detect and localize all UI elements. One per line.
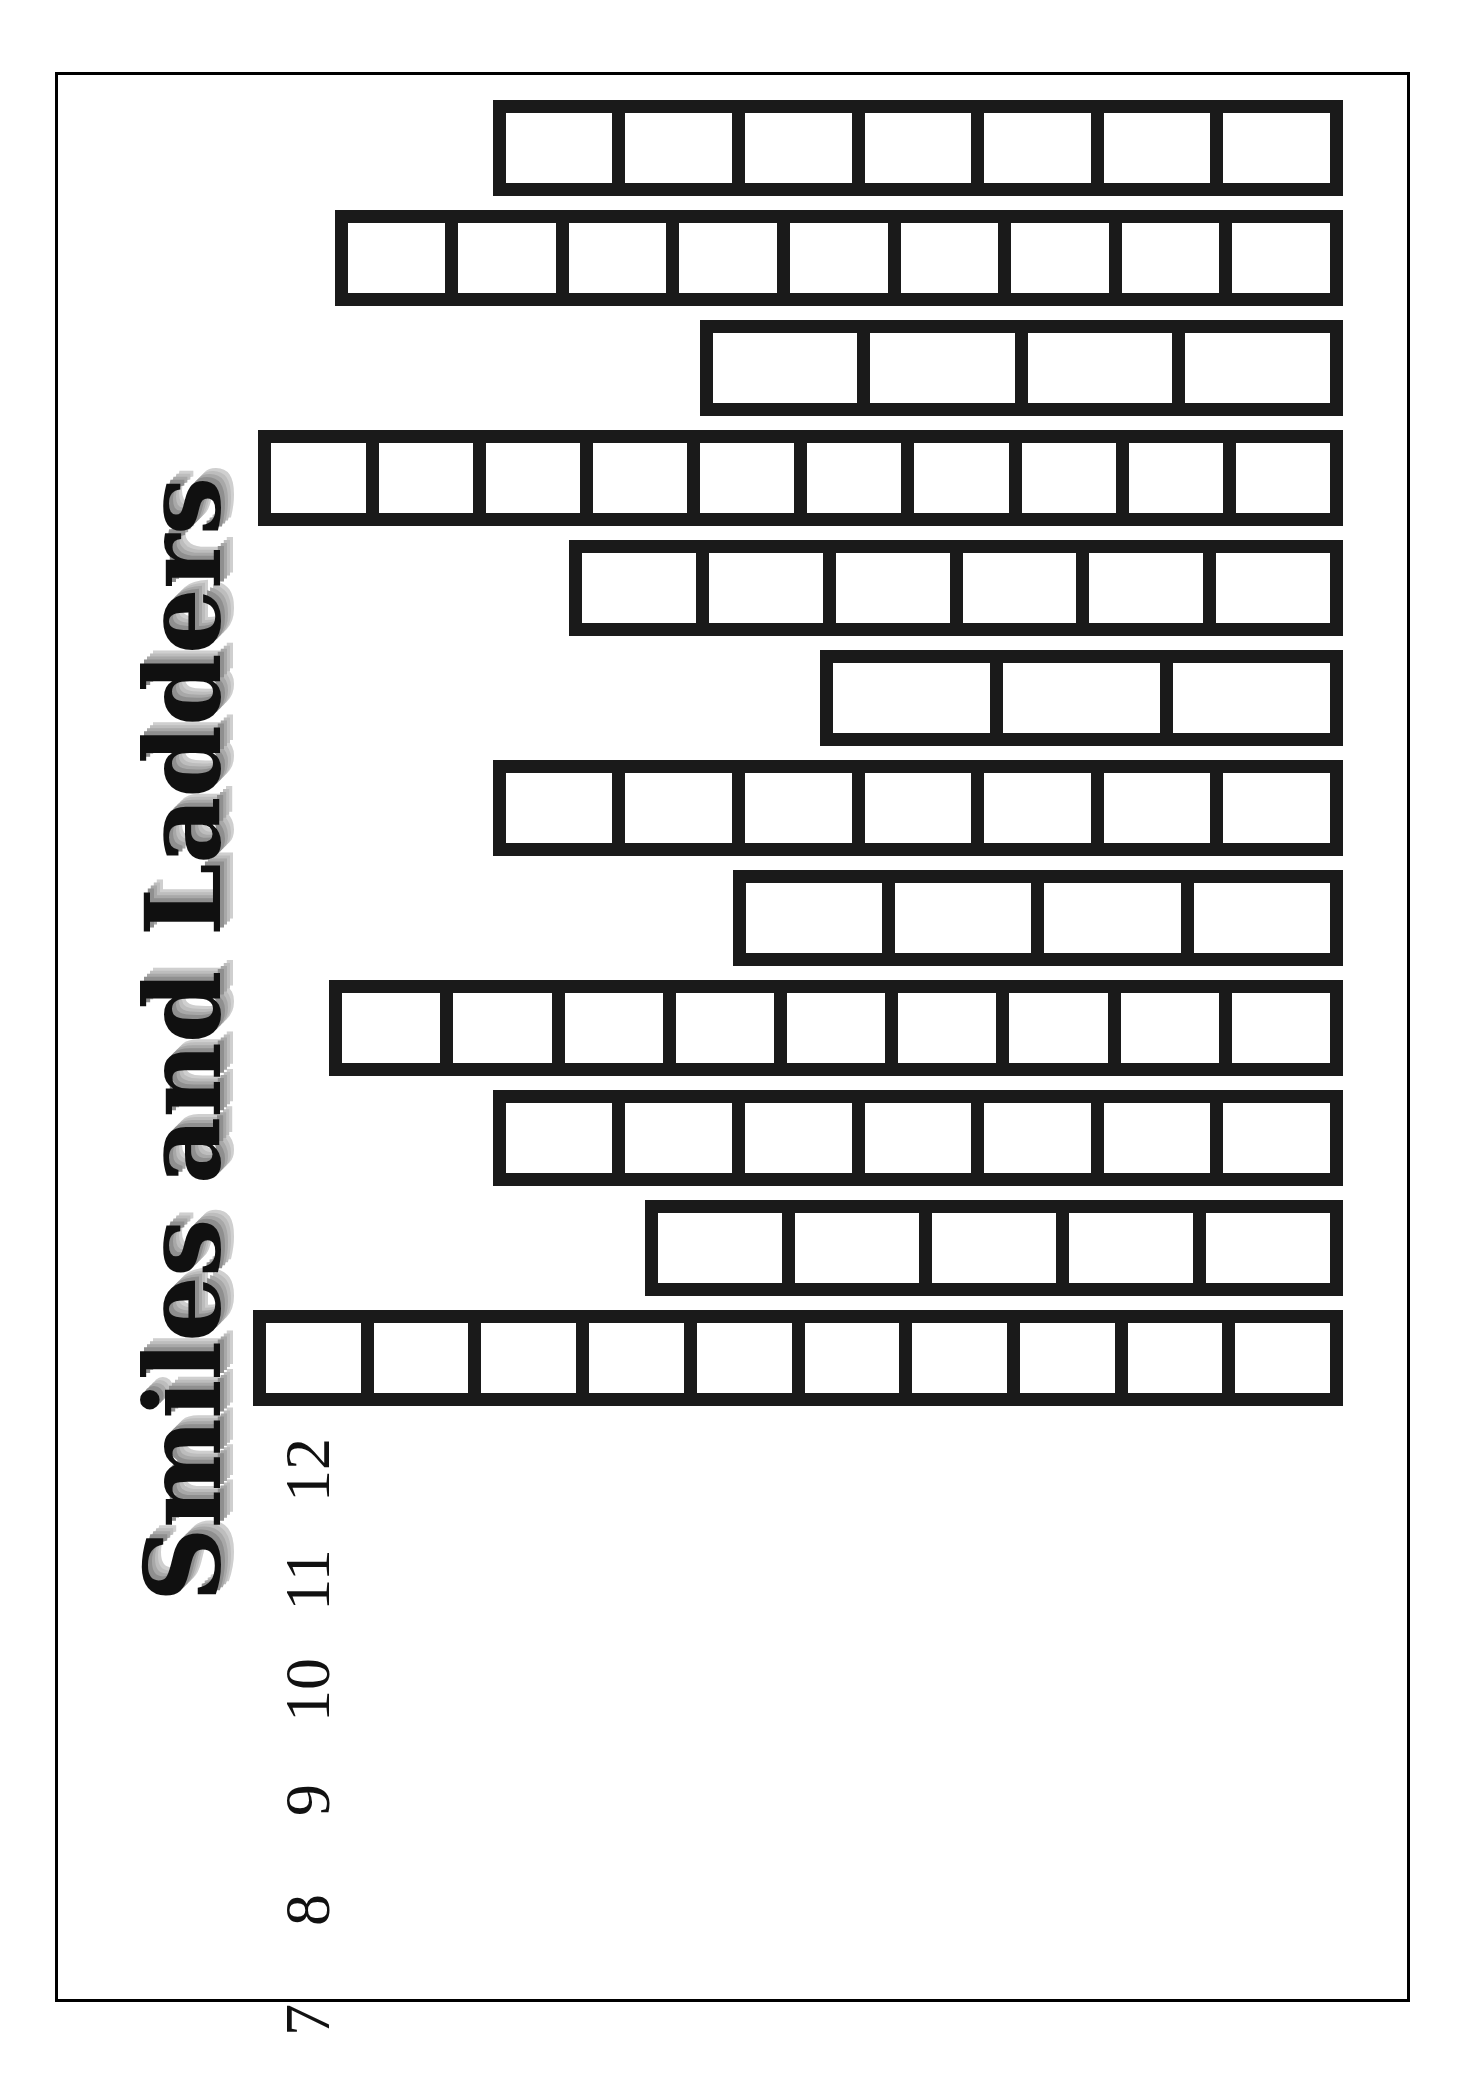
ladder-rung-gap	[865, 113, 972, 183]
ladder-rung	[852, 1103, 865, 1173]
ladder-rung	[1091, 773, 1104, 843]
ladder-bar	[820, 650, 1343, 746]
ladder-rung	[885, 993, 898, 1063]
ladder-rung-gap	[625, 113, 732, 183]
ladder-rung-gap	[865, 1103, 972, 1173]
ladder-rung-gap	[912, 1323, 1007, 1393]
ladder-rung-gap	[1089, 553, 1203, 623]
ladder-rung	[552, 993, 565, 1063]
ladder-rung-gap	[1104, 773, 1211, 843]
ladder-rung-gap	[963, 553, 1077, 623]
ladder-rung	[1115, 1323, 1128, 1393]
ladder-rung-gap	[1223, 113, 1330, 183]
ladder-rung	[1330, 993, 1343, 1063]
ladder-rung	[1223, 443, 1236, 513]
ladder-rung	[1330, 1213, 1343, 1283]
ladder-rung-gap	[1121, 993, 1219, 1063]
ladder-rung	[700, 333, 713, 403]
ladder-rung	[792, 1323, 805, 1393]
ladder-rung-gap	[984, 773, 1091, 843]
ladder-rung-gap	[805, 1323, 900, 1393]
ladder-rung-gap	[658, 1213, 782, 1283]
ladder-bar	[645, 1200, 1343, 1296]
ladder-rung	[493, 113, 506, 183]
ladder-rung	[1210, 1103, 1223, 1173]
ladder-rung-gap	[1223, 773, 1330, 843]
ladder-bar	[569, 540, 1343, 636]
ladder-rung	[1219, 223, 1232, 293]
ladder-bar	[335, 210, 1343, 306]
ladder-rung	[468, 1323, 481, 1393]
ladder-rung	[1222, 1323, 1235, 1393]
ladder-rung	[1330, 333, 1343, 403]
ladder-rung-gap	[787, 993, 885, 1063]
ladder-rung-gap	[348, 223, 446, 293]
ladder-rung-gap	[790, 223, 888, 293]
ladder-rung	[782, 1213, 795, 1283]
ladder-rung	[361, 1323, 374, 1393]
ladder-rung-gap	[1022, 443, 1116, 513]
ladder-rung-gap	[745, 773, 852, 843]
axis-tick-label: 9	[288, 1745, 328, 1855]
ladder-rung	[998, 223, 1011, 293]
ladder-rung	[1007, 1323, 1020, 1393]
ladder-rung	[1108, 993, 1121, 1063]
ladder-rung-gap	[1235, 1323, 1330, 1393]
ladder-rung	[823, 553, 836, 623]
ladder-rung-gap	[745, 113, 852, 183]
ladder-rung	[996, 993, 1009, 1063]
ladder-rung	[569, 553, 582, 623]
ladder-rung	[1330, 1323, 1343, 1393]
ladder-rung	[687, 443, 700, 513]
ladder-bar	[329, 980, 1343, 1076]
axis-tick-label: 12	[288, 1415, 328, 1525]
ladder-rung-gap	[713, 333, 858, 403]
ladder-rung	[684, 1323, 697, 1393]
ladder-rung-gap	[481, 1323, 576, 1393]
ladder-rung	[1330, 553, 1343, 623]
ladder-rung-gap	[870, 333, 1015, 403]
ladder-rung	[1056, 1213, 1069, 1283]
ladder-chart-plot-area	[253, 93, 1343, 1413]
ladder-rung	[612, 773, 625, 843]
ladder-rung-gap	[625, 773, 732, 843]
ladder-rung	[1091, 113, 1104, 183]
ladder-rung	[445, 223, 458, 293]
ladder-rung-gap	[506, 773, 613, 843]
ladder-rung-gap	[1236, 443, 1330, 513]
ladder-rung	[1210, 773, 1223, 843]
ladder-rung	[990, 663, 1003, 733]
ladder-rung	[1193, 1213, 1206, 1283]
ladder-rung-gap	[506, 113, 613, 183]
ladder-rung-gap	[271, 443, 365, 513]
ladder-rung	[576, 1323, 589, 1393]
ladder-rung	[1330, 223, 1343, 293]
ladder-rung-gap	[453, 993, 551, 1063]
ladder-rung	[1009, 443, 1022, 513]
ladder-rung-gap	[1206, 1213, 1330, 1283]
ladder-rung-gap	[984, 1103, 1091, 1173]
ladder-rung-gap	[865, 773, 972, 843]
ladder-rung	[882, 883, 895, 953]
ladder-rung	[901, 443, 914, 513]
ladder-rung	[366, 443, 379, 513]
ladder-rung	[473, 443, 486, 513]
ladder-rung-gap	[1044, 883, 1180, 953]
ladder-rung	[556, 223, 569, 293]
ladder-rung	[852, 113, 865, 183]
ladder-rung	[732, 1103, 745, 1173]
ladder-rung	[971, 113, 984, 183]
ladder-rung-gap	[1185, 333, 1330, 403]
ladder-bar	[700, 320, 1343, 416]
ladder-rung	[1330, 1103, 1343, 1173]
ladder-rung	[1219, 993, 1232, 1063]
ladder-rung-gap	[1216, 553, 1330, 623]
ladder-rung	[1116, 443, 1129, 513]
ladder-rung-gap	[1232, 993, 1330, 1063]
ladder-rung-gap	[745, 1103, 852, 1173]
ladder-rung-gap	[746, 883, 882, 953]
ladder-rung	[612, 113, 625, 183]
ladder-rung-gap	[379, 443, 473, 513]
ladder-rung-gap	[582, 553, 696, 623]
ladder-rung-gap	[1122, 223, 1220, 293]
